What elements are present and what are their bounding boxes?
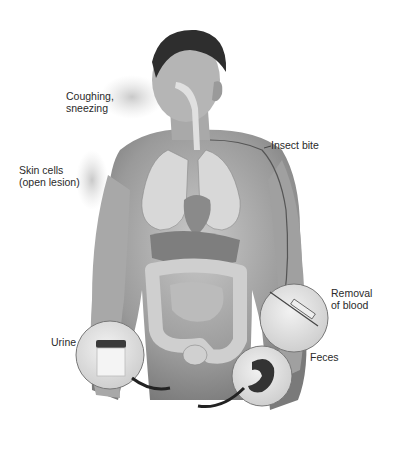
- label-blood-line1: Removal: [331, 287, 372, 299]
- label-skin-line2: (open lesion): [19, 176, 80, 188]
- label-coughing-line2: sneezing: [66, 102, 108, 114]
- label-coughing-line1: Coughing,: [66, 90, 114, 102]
- label-feces: Feces: [310, 351, 339, 363]
- small-intestine: [170, 282, 224, 322]
- bladder: [183, 345, 207, 365]
- body-illustration: [0, 0, 393, 451]
- label-urine: Urine: [51, 336, 76, 348]
- blood-removal-lens: [260, 284, 328, 352]
- label-skin-line1: Skin cells: [19, 164, 63, 176]
- label-insect-bite: Insect bite: [271, 139, 319, 151]
- urine-cup: [97, 348, 125, 376]
- label-blood-line2: of blood: [331, 299, 368, 311]
- urine-cup-lid: [96, 340, 126, 348]
